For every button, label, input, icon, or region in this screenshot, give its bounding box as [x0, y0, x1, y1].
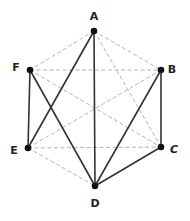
- vertex-label-F: F: [12, 62, 20, 73]
- edge-F-E-solid: [28, 70, 30, 148]
- edge-C-D-solid: [95, 147, 161, 186]
- vertex-E: [25, 145, 32, 152]
- vertex-label-C: C: [170, 144, 178, 155]
- vertex-D: [92, 183, 99, 190]
- vertex-B: [158, 67, 165, 74]
- vertex-label-B: B: [168, 64, 176, 75]
- vertex-label-A: A: [90, 11, 99, 22]
- graph-canvas: [0, 0, 190, 221]
- edge-A-B-dashed: [94, 31, 161, 70]
- edge-B-D-solid: [95, 70, 161, 186]
- vertex-label-E: E: [10, 145, 18, 156]
- edge-A-F-dashed: [30, 31, 94, 70]
- edge-A-E-solid: [28, 31, 94, 148]
- edge-A-D-solid: [94, 31, 95, 186]
- vertex-label-D: D: [90, 198, 99, 209]
- vertex-A: [91, 28, 98, 35]
- vertex-F: [27, 67, 34, 74]
- vertex-C: [158, 144, 165, 151]
- solid-edges: [28, 31, 161, 186]
